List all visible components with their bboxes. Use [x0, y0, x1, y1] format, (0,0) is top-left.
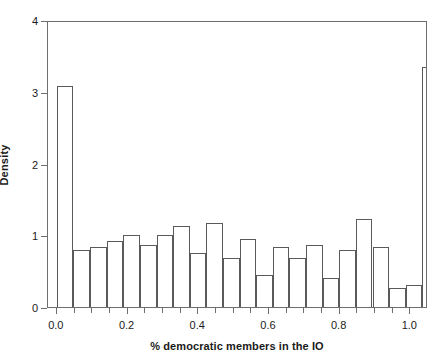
- histogram-bar: [356, 219, 373, 307]
- x-axis-tick: [303, 308, 304, 313]
- x-axis-tick-major: [409, 308, 410, 314]
- histogram-bar: [157, 235, 174, 307]
- histogram-bar: [256, 275, 273, 307]
- histogram-bar: [140, 245, 157, 307]
- x-axis-tick-label: 0.4: [190, 319, 205, 331]
- y-axis-tick-label: 3: [32, 87, 38, 98]
- histogram-bar: [73, 250, 90, 307]
- x-axis-tick-major: [268, 308, 269, 314]
- x-axis-tick: [162, 308, 163, 313]
- plot-area: [47, 21, 427, 308]
- histogram-bar: [373, 247, 390, 307]
- histogram-bar: [389, 288, 406, 307]
- histogram-bar: [306, 245, 323, 307]
- histogram-bar: [273, 247, 290, 307]
- histogram-bar: [323, 278, 340, 307]
- histogram-bar: [173, 226, 190, 307]
- y-axis-tick-label: 2: [32, 159, 38, 170]
- x-axis-tick: [250, 308, 251, 313]
- x-axis-tick: [109, 308, 110, 313]
- x-axis-tick: [321, 308, 322, 313]
- x-axis-tick: [91, 308, 92, 313]
- x-axis-title: % democratic members in the IO: [150, 340, 324, 352]
- x-axis-tick: [392, 308, 393, 313]
- histogram-bar: [406, 285, 423, 307]
- histogram-bar: [90, 247, 107, 307]
- x-axis-tick-major: [197, 308, 198, 314]
- y-axis-tick-label: 1: [32, 231, 38, 242]
- histogram-bar: [107, 241, 124, 307]
- bars-layer: [48, 22, 426, 307]
- x-axis-tick: [286, 308, 287, 313]
- histogram-bar: [289, 258, 306, 308]
- x-axis-tick: [74, 308, 75, 313]
- x-axis-tick-major: [56, 308, 57, 314]
- histogram-bar: [190, 253, 207, 307]
- x-axis: 0.00.20.40.60.81.0 % democratic members …: [0, 308, 440, 362]
- histogram-bar: [57, 86, 74, 307]
- x-axis-tick: [356, 308, 357, 313]
- x-axis-tick: [233, 308, 234, 313]
- histogram-figure: Density 01234 0.00.20.40.60.81.0 % democ…: [0, 0, 440, 362]
- histogram-bar: [223, 258, 240, 308]
- histogram-bar: [240, 239, 257, 307]
- histogram-bar: [206, 223, 223, 307]
- x-axis-tick-label: 0.2: [119, 319, 134, 331]
- x-axis-tick: [144, 308, 145, 313]
- x-axis-tick: [215, 308, 216, 313]
- x-axis-tick-label: 0.0: [48, 319, 63, 331]
- x-axis-tick-label: 1.0: [402, 319, 417, 331]
- x-axis-tick: [374, 308, 375, 313]
- histogram-bar: [339, 250, 356, 307]
- x-axis-tick-label: 0.6: [260, 319, 275, 331]
- x-axis-tick: [180, 308, 181, 313]
- x-axis-tick-major: [339, 308, 340, 314]
- y-axis-title: Density: [0, 144, 10, 185]
- x-axis-tick-label: 0.8: [331, 319, 346, 331]
- histogram-bar: [123, 235, 140, 307]
- histogram-bar: [422, 67, 426, 307]
- y-axis-tick-label: 4: [32, 16, 38, 27]
- x-axis-tick-major: [127, 308, 128, 314]
